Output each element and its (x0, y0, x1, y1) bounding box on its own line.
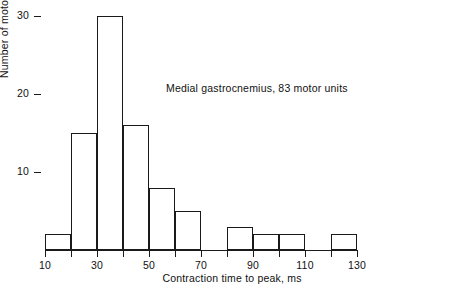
histogram-bar (71, 133, 97, 250)
x-tick-mark (149, 250, 150, 257)
y-tick-mark (34, 16, 41, 17)
x-tick-mark (201, 250, 202, 257)
x-tick-label: 30 (77, 259, 117, 271)
x-tick-label: 110 (285, 259, 325, 271)
x-tick-mark (279, 250, 280, 257)
x-tick-label: 50 (129, 259, 169, 271)
plot-area (45, 8, 357, 250)
x-tick-mark (305, 250, 306, 257)
y-tick-label: 20 (3, 87, 29, 99)
x-tick-label: 130 (337, 259, 377, 271)
histogram-bar (123, 125, 149, 250)
histogram-figure: Number of motor units 1030507090110130 1… (0, 0, 464, 291)
x-tick-mark (45, 250, 46, 257)
x-tick-label: 10 (25, 259, 65, 271)
histogram-bar (149, 188, 175, 250)
x-tick-mark (175, 250, 176, 257)
x-tick-mark (97, 250, 98, 257)
histogram-bar (253, 234, 279, 250)
y-tick-label: 10 (3, 165, 29, 177)
x-tick-mark (123, 250, 124, 257)
x-tick-mark (357, 250, 358, 257)
y-tick-mark (34, 94, 41, 95)
x-axis-label: Contraction time to peak, ms (0, 272, 464, 284)
histogram-bar (279, 234, 305, 250)
x-tick-mark (253, 250, 254, 257)
y-tick-mark (34, 172, 41, 173)
histogram-bar (97, 16, 123, 250)
x-tick-mark (331, 250, 332, 257)
y-tick-label: 30 (3, 9, 29, 21)
histogram-bar (45, 234, 71, 250)
x-tick-label: 70 (181, 259, 221, 271)
histogram-bar (331, 234, 357, 250)
histogram-bar (175, 211, 201, 250)
chart-annotation: Medial gastrocnemius, 83 motor units (166, 82, 348, 94)
x-tick-mark (227, 250, 228, 257)
histogram-bar (227, 227, 253, 250)
x-tick-mark (71, 250, 72, 257)
x-tick-label: 90 (233, 259, 273, 271)
